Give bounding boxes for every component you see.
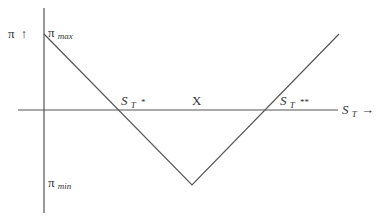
arrow-up-icon: ↑ [21, 26, 28, 41]
x-axis-symbol: S [342, 102, 349, 117]
pi-max-base: π [48, 25, 55, 40]
payoff-diagram: π ↑ π max π min S T * X S T ** S T → [0, 0, 382, 221]
x-axis-label: S T → [342, 102, 374, 120]
arrow-right-icon: → [361, 102, 374, 117]
pi-min-base: π [48, 175, 55, 190]
strike-label: X [192, 93, 202, 108]
breakeven-high-label: S T ** [280, 93, 310, 111]
breakeven-high-sub: T [290, 100, 296, 110]
pi-max-sub: max [58, 31, 73, 41]
pi-max-label: π max [48, 25, 73, 41]
breakeven-high-suffix: ** [300, 97, 310, 107]
breakeven-low-sub: T [131, 100, 137, 110]
breakeven-low-label: S T * [121, 93, 146, 111]
y-axis-label: π ↑ [8, 26, 27, 41]
breakeven-low-suffix: * [141, 97, 146, 107]
breakeven-low-base: S [121, 93, 128, 108]
pi-min-label: π min [48, 175, 72, 191]
pi-min-sub: min [58, 181, 72, 191]
breakeven-high-base: S [280, 93, 287, 108]
x-axis-sub: T [352, 109, 358, 119]
y-axis-symbol: π [8, 26, 15, 41]
